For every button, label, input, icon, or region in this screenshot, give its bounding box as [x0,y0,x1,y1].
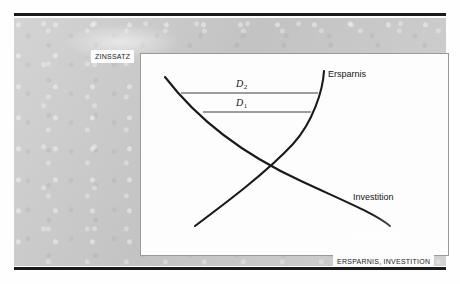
ersparnis-curve [195,71,324,226]
chart-panel [140,53,449,256]
chart-canvas [141,54,450,257]
gap-label-d1-subscript: 1 [244,102,248,110]
gap-label-d2-letter: D [236,78,243,89]
gap-label-d1: D1 [236,97,247,110]
ersparnis-curve-label: Ersparnis [328,69,366,80]
gap-label-d2-subscript: 2 [244,83,248,91]
gap-label-d1-letter: D [236,97,243,108]
bottom-rule [14,267,446,270]
gap-label-d2: D2 [236,78,247,91]
y-axis-caption: ZINSSATZ [91,50,134,63]
figure-page: Ersparnis Investition D2 D1 ZINSSATZ ERS… [0,0,460,284]
top-rule [14,13,446,16]
investition-curve [165,77,390,226]
figure-plate: Ersparnis Investition D2 D1 ZINSSATZ ERS… [14,18,446,266]
investition-curve-label: Investition [353,192,394,203]
